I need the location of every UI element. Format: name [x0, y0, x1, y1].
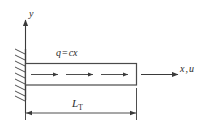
length-subscript: T [78, 103, 83, 112]
load-rhs: cx [69, 47, 78, 58]
x-axis-label: x,u [180, 64, 194, 74]
fixed-support-wall [15, 49, 26, 101]
wall-hatching [15, 49, 25, 101]
cantilever-beam-diagram: y q=cx x,u LT [0, 0, 202, 139]
equals-sign: = [61, 47, 69, 58]
y-axis-label: y [29, 9, 33, 19]
diagram-canvas [0, 0, 202, 139]
load-equation-label: q=cx [56, 48, 78, 58]
displacement-variable: u [189, 63, 194, 74]
length-label: LT [72, 98, 83, 112]
